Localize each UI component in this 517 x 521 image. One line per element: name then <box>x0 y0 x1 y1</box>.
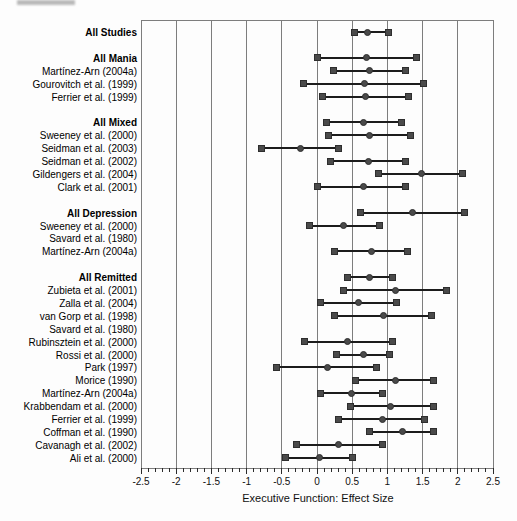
gridline <box>352 20 353 468</box>
mean-marker <box>392 287 399 294</box>
mean-marker <box>379 416 386 423</box>
ci-lower-marker <box>306 222 313 229</box>
x-axis-tick-label: 2.5 <box>476 476 510 487</box>
ci-lower-marker <box>258 145 265 152</box>
gridline <box>457 20 458 468</box>
ci-lower-marker <box>317 299 324 306</box>
x-axis-title: Executive Function: Effect Size <box>207 492 429 504</box>
ci-upper-marker <box>398 119 405 126</box>
x-axis-minor-tick <box>218 468 219 472</box>
x-axis-major-tick <box>387 468 388 474</box>
study-label: Martínez-Arn (2004a) <box>0 387 137 400</box>
ci-lower-marker <box>352 377 359 384</box>
study-label: Seidman et al. (2003) <box>0 142 137 155</box>
ci-upper-marker <box>376 222 383 229</box>
ci-lower-marker <box>331 248 338 255</box>
mean-marker <box>360 183 367 190</box>
x-axis-minor-tick <box>239 468 240 472</box>
mean-marker <box>344 338 351 345</box>
x-axis-minor-tick <box>415 468 416 472</box>
gridline <box>422 20 423 468</box>
ci-lower-marker <box>282 454 289 461</box>
gridline <box>141 20 142 468</box>
x-axis-major-tick <box>246 468 247 474</box>
x-axis-minor-tick <box>183 468 184 472</box>
study-label: Morice (1990) <box>0 374 137 387</box>
x-axis-tick-label: 0 <box>300 476 334 487</box>
mean-marker <box>335 441 342 448</box>
ci-upper-marker <box>393 299 400 306</box>
group-header-label: All Mania <box>0 52 137 65</box>
ci-upper-marker <box>459 170 466 177</box>
ci-lower-marker <box>366 428 373 435</box>
ci-upper-marker <box>402 183 409 190</box>
x-axis-major-tick <box>281 468 282 474</box>
x-axis-minor-tick <box>253 468 254 472</box>
group-header-label: All Studies <box>0 26 137 39</box>
mean-marker <box>362 93 369 100</box>
mean-marker <box>360 119 367 126</box>
x-axis-minor-tick <box>436 468 437 472</box>
study-label: Rossi et al. (2000) <box>0 349 137 362</box>
ci-lower-marker <box>330 67 337 74</box>
ci-lower-marker <box>351 29 358 36</box>
study-label: van Gorp et al. (1998) <box>0 310 137 323</box>
x-axis-minor-tick <box>260 468 261 472</box>
x-axis-major-tick <box>211 468 212 474</box>
ci-lower-marker <box>300 80 307 87</box>
x-axis-minor-tick <box>443 468 444 472</box>
mean-marker <box>363 54 370 61</box>
gridline <box>211 20 212 468</box>
mean-marker <box>409 209 416 216</box>
mean-marker <box>418 170 425 177</box>
ci-upper-marker <box>421 416 428 423</box>
mean-marker <box>366 274 373 281</box>
mean-marker <box>355 299 362 306</box>
study-label: Martínez-Arn (2004a) <box>0 65 137 78</box>
x-axis-tick-label: 2 <box>441 476 475 487</box>
ci-upper-marker <box>402 67 409 74</box>
mean-marker <box>366 132 373 139</box>
mean-marker <box>297 145 304 152</box>
x-axis-minor-tick <box>331 468 332 472</box>
ci-upper-marker <box>349 454 356 461</box>
ci-upper-marker <box>389 338 396 345</box>
mean-marker <box>316 454 323 461</box>
ci-upper-marker <box>335 145 342 152</box>
ci-upper-marker <box>413 54 420 61</box>
mean-marker <box>387 403 394 410</box>
study-label: Seidman et al. (2002) <box>0 155 137 168</box>
x-axis-minor-tick <box>464 468 465 472</box>
ci-lower-marker <box>375 170 382 177</box>
mean-marker <box>361 80 368 87</box>
x-axis-minor-tick <box>155 468 156 472</box>
ci-upper-marker <box>443 287 450 294</box>
ci-lower-marker <box>327 158 334 165</box>
ci-lower-marker <box>331 312 338 319</box>
gridline <box>176 20 177 468</box>
ci-upper-marker <box>430 377 437 384</box>
ci-lower-marker <box>333 351 340 358</box>
ci-lower-marker <box>273 364 280 371</box>
study-label: Zubieta et al. (2001) <box>0 284 137 297</box>
x-axis-minor-tick <box>401 468 402 472</box>
x-axis-minor-tick <box>373 468 374 472</box>
ci-upper-marker <box>430 403 437 410</box>
x-axis-minor-tick <box>190 468 191 472</box>
x-axis-major-tick <box>141 468 142 474</box>
ci-lower-marker <box>344 274 351 281</box>
study-label: Zalla et al. (2004) <box>0 297 137 310</box>
group-header-label: All Remitted <box>0 271 137 284</box>
study-label: Coffman et al. (1990) <box>0 426 137 439</box>
ci-line <box>354 31 388 33</box>
mean-marker <box>392 377 399 384</box>
x-axis-tick-label: 1 <box>370 476 404 487</box>
mean-marker <box>399 428 406 435</box>
ci-upper-marker <box>407 132 414 139</box>
x-axis-major-tick <box>457 468 458 474</box>
study-label: Park (1997) <box>0 361 137 374</box>
ci-upper-marker <box>461 209 468 216</box>
ci-lower-marker <box>340 287 347 294</box>
study-label: Ali et al. (2000) <box>0 452 137 465</box>
x-axis-minor-tick <box>394 468 395 472</box>
